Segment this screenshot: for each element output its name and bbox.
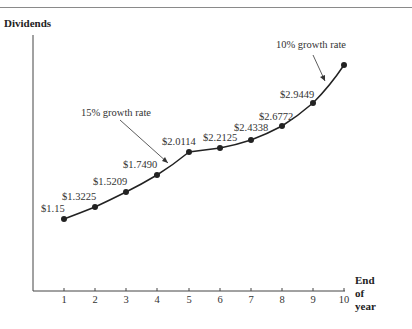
x-tick-7: 7 [248, 294, 253, 305]
annotation-15-arrow [120, 120, 168, 163]
annotation-10-growth: 10% growth rate [276, 39, 346, 50]
annotation-15-growth: 15% growth rate [81, 107, 151, 118]
point-label-9: $2.9449 [280, 89, 314, 100]
point-6 [217, 145, 223, 151]
point-8 [279, 123, 285, 129]
x-tick-2: 2 [92, 294, 97, 305]
point-label-2: $1.3225 [62, 191, 96, 202]
point-2 [92, 204, 98, 210]
x-tick-8: 8 [279, 294, 284, 305]
point-label-6: $2.2125 [203, 132, 237, 143]
point-5 [186, 149, 192, 155]
x-tick-5: 5 [186, 294, 191, 305]
y-axis-title: Dividends [4, 17, 52, 29]
point-7 [248, 137, 254, 143]
point-label-3: $1.5209 [93, 176, 127, 187]
point-label-5: $2.0114 [162, 136, 196, 147]
point-label-7: $2.4338 [234, 122, 268, 133]
point-label-1: $1.15 [41, 203, 65, 214]
x-tick-4: 4 [154, 294, 160, 305]
point-label-4: $1.7490 [123, 159, 157, 170]
x-axis-title-line2: of [355, 287, 365, 299]
point-10 [341, 62, 347, 68]
point-label-8: $2.6772 [259, 111, 293, 122]
x-tick-labels: 1 2 3 4 5 6 7 8 9 10 [61, 294, 349, 305]
x-axis-title-line3: year [355, 300, 376, 312]
x-tick-10: 10 [339, 294, 350, 305]
point-4 [154, 172, 160, 178]
point-3 [123, 189, 129, 195]
x-tick-6: 6 [217, 294, 222, 305]
x-tick-1: 1 [61, 294, 66, 305]
point-9 [310, 100, 316, 106]
x-tick-3: 3 [123, 294, 128, 305]
x-axis-title-line1: End [355, 274, 375, 286]
x-tick-9: 9 [310, 294, 315, 305]
dividend-chart: Dividends 1 2 3 4 5 6 7 8 9 10 End of ye… [0, 0, 412, 329]
point-1 [61, 216, 67, 222]
